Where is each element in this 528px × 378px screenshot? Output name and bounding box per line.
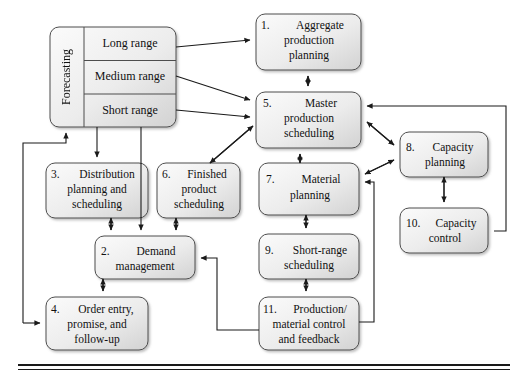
node-box-10[interactable]	[400, 208, 488, 253]
diagram-canvas: Forecasting Long range Medium range Shor…	[0, 0, 528, 378]
node-box-6[interactable]	[157, 163, 240, 218]
node-box-5[interactable]	[256, 92, 361, 148]
node-boxes	[46, 14, 488, 350]
node-box-3[interactable]	[46, 163, 148, 218]
node-box-8[interactable]	[400, 132, 488, 177]
node-box-9[interactable]	[259, 234, 359, 279]
node-forecasting-group[interactable]	[50, 27, 176, 127]
flowchart-svg	[0, 0, 528, 378]
node-box-1[interactable]	[256, 14, 361, 70]
node-box-4[interactable]	[46, 297, 148, 350]
arrow-8-to-5	[367, 122, 394, 145]
node-box-2[interactable]	[95, 236, 195, 279]
node-box-7[interactable]	[259, 163, 359, 215]
bottom-rule	[18, 365, 510, 370]
arrow-mediumrange-to-5	[176, 76, 250, 100]
node-box-11[interactable]	[259, 297, 359, 350]
arrow-11-to-2	[201, 258, 259, 330]
arrow-longrange-to-1	[176, 40, 250, 47]
arrow-8-to-7	[365, 160, 394, 174]
arrow-5-to-6	[210, 126, 253, 163]
arrow-shortrange-to-5	[176, 110, 250, 117]
arrow-4-to-forecasting	[23, 133, 66, 323]
arrow-11-to-7	[359, 182, 374, 322]
